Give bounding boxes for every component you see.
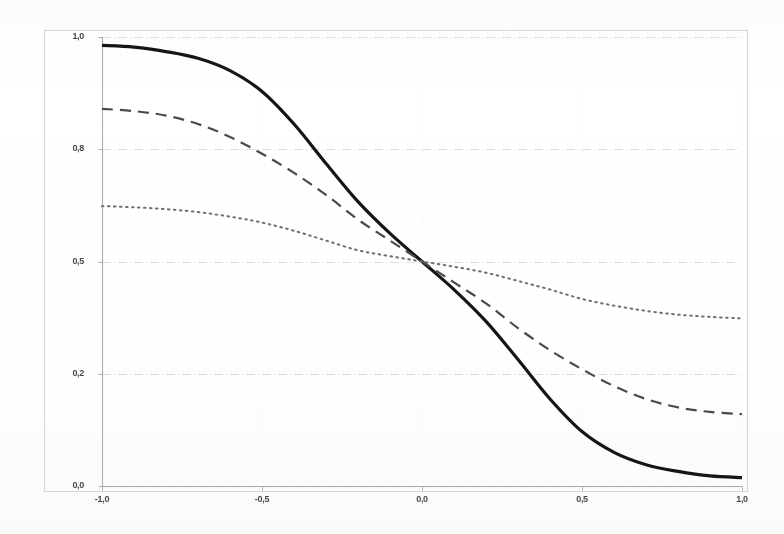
y-tick-label: 0,2: [50, 368, 84, 378]
x-tick-label: 0,5: [559, 494, 605, 504]
plot-area: [44, 30, 748, 492]
y-tick-label: 1,0: [50, 31, 84, 41]
y-tick-label: 0,0: [50, 480, 84, 490]
x-tick-label: 0,0: [399, 494, 445, 504]
x-tick-label: 1,0: [719, 494, 765, 504]
y-tick-label: 0,8: [50, 143, 84, 153]
y-tick-label: 0,5: [50, 256, 84, 266]
x-tick-label: -1,0: [79, 494, 125, 504]
chart-container: 1,00,80,50,20,0 -1,0-0,50,00,51,0: [0, 0, 784, 534]
x-tick-label: -0,5: [239, 494, 285, 504]
sigmoid-line-chart: [44, 30, 748, 492]
